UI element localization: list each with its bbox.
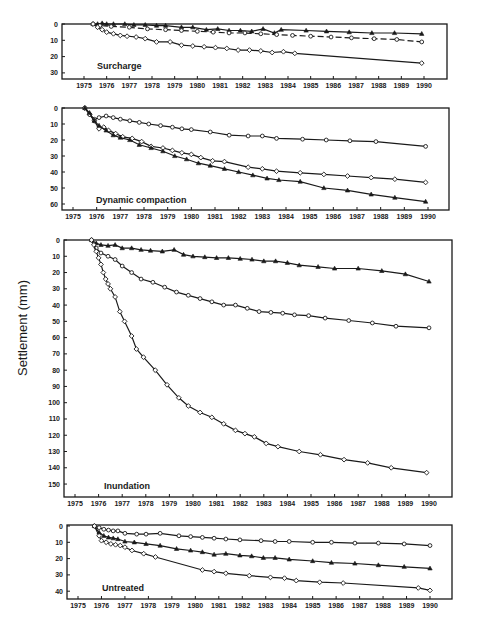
- y-tick-label: 60: [50, 201, 58, 208]
- data-point-circle: [259, 539, 263, 543]
- data-point-diamond: [129, 334, 134, 339]
- y-tick-label: 130: [48, 448, 60, 455]
- y-tick-label: 20: [50, 137, 58, 144]
- y-tick-label: 10: [50, 121, 58, 128]
- data-point-circle: [323, 316, 327, 320]
- x-tick-label: 1976: [99, 82, 115, 89]
- data-point-circle: [189, 128, 193, 132]
- data-point-diamond: [292, 51, 297, 56]
- data-point-diamond: [200, 568, 205, 573]
- x-tick-label: 1976: [89, 213, 105, 220]
- data-point-diamond: [392, 177, 397, 182]
- data-point-circle: [275, 33, 279, 37]
- data-point-circle: [353, 541, 357, 545]
- data-point-circle: [420, 40, 424, 44]
- data-point-circle: [104, 114, 108, 118]
- x-tick-label: 1984: [278, 213, 294, 220]
- data-point-circle: [111, 529, 115, 533]
- data-point-diamond: [113, 295, 118, 300]
- y-tick-label: 10: [52, 253, 60, 260]
- data-point-circle: [224, 537, 228, 541]
- x-tick-label: 1982: [232, 500, 248, 507]
- data-point-circle: [97, 116, 101, 120]
- data-point-circle: [163, 285, 167, 289]
- y-tick-label: 30: [50, 69, 58, 76]
- data-point-circle: [376, 541, 380, 545]
- y-tick-label: 80: [52, 367, 60, 374]
- data-point-circle: [374, 140, 378, 144]
- data-point-circle: [395, 38, 399, 42]
- panel-surcharge: 0102030197519761977197819791980198119821…: [50, 21, 447, 90]
- x-tick-label: 1986: [328, 602, 344, 609]
- data-point-circle: [301, 137, 305, 141]
- panel-title: Inundation: [104, 481, 150, 491]
- data-point-diamond: [212, 569, 217, 574]
- x-tick-label: 1977: [113, 213, 129, 220]
- data-point-circle: [210, 300, 214, 304]
- y-tick-label: 0: [56, 237, 60, 244]
- data-point-diamond: [252, 434, 257, 439]
- x-tick-label: 1988: [373, 213, 389, 220]
- x-tick-label: 1986: [326, 213, 342, 220]
- data-point-diamond: [317, 580, 322, 585]
- y-tick-label: 60: [52, 334, 60, 341]
- data-point-circle: [113, 258, 117, 262]
- data-point-diamond: [99, 262, 104, 267]
- y-tick-label: 40: [50, 169, 58, 176]
- data-point-circle: [116, 529, 120, 533]
- data-point-diamond: [282, 576, 287, 581]
- data-point-circle: [147, 122, 151, 126]
- data-point-circle: [281, 311, 285, 315]
- x-tick-label: 1978: [141, 602, 157, 609]
- data-point-diamond: [264, 441, 269, 446]
- y-tick-label: 0: [54, 21, 58, 28]
- y-axis-label: Settlement (mm): [15, 280, 30, 376]
- data-point-diamond: [258, 48, 263, 53]
- x-tick-label: 1983: [258, 82, 274, 89]
- data-point-diamond: [134, 35, 139, 40]
- data-point-circle: [257, 310, 261, 314]
- data-point-diamond: [221, 421, 226, 426]
- data-point-circle: [428, 544, 432, 548]
- x-tick-label: 1983: [258, 602, 274, 609]
- data-point-diamond: [210, 158, 215, 163]
- series-diamond: [89, 238, 429, 475]
- data-point-circle: [311, 540, 315, 544]
- x-tick-label: 1986: [326, 82, 342, 89]
- x-tick-label: 1980: [185, 500, 201, 507]
- data-point-diamond: [122, 319, 127, 324]
- data-point-diamond: [233, 428, 238, 433]
- data-point-circle: [273, 540, 277, 544]
- data-point-circle: [130, 271, 134, 275]
- data-point-diamond: [189, 152, 194, 157]
- x-tick-label: 1987: [349, 213, 365, 220]
- data-point-diamond: [108, 542, 113, 547]
- data-point-circle: [243, 31, 247, 35]
- data-point-diamond: [345, 174, 350, 179]
- x-tick-label: 1985: [302, 213, 318, 220]
- data-point-circle: [107, 528, 111, 532]
- data-point-diamond: [141, 551, 146, 556]
- x-tick-label: 1989: [397, 213, 413, 220]
- data-point-circle: [195, 29, 199, 33]
- data-point-diamond: [118, 33, 123, 38]
- data-point-diamond: [419, 61, 424, 66]
- data-point-circle: [171, 125, 175, 129]
- x-tick-label: 1989: [398, 500, 414, 507]
- data-point-diamond: [247, 48, 252, 53]
- x-tick-label: 1988: [371, 82, 387, 89]
- data-point-circle: [394, 324, 398, 328]
- data-point-circle: [307, 314, 311, 318]
- y-tick-label: 100: [48, 399, 60, 406]
- x-tick-label: 1981: [207, 213, 223, 220]
- x-tick-label: 1990: [420, 213, 436, 220]
- x-tick-label: 1980: [188, 602, 204, 609]
- series-triangle: [83, 106, 428, 204]
- data-point-diamond: [321, 172, 326, 177]
- y-tick-label: 30: [50, 153, 58, 160]
- data-point-diamond: [198, 410, 203, 415]
- data-point-circle: [370, 321, 374, 325]
- data-point-diamond: [365, 460, 370, 465]
- plot-frame: [64, 240, 452, 497]
- x-tick-label: 1977: [122, 82, 138, 89]
